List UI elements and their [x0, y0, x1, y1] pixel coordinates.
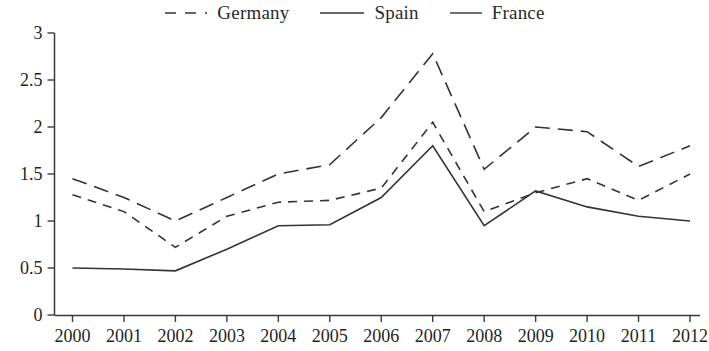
x-tick-label: 2007 — [415, 326, 451, 346]
data-series-group — [73, 54, 691, 271]
x-tick-label: 2010 — [569, 326, 605, 346]
y-tick-label: 2.5 — [20, 70, 43, 90]
x-tick-label: 2003 — [209, 326, 245, 346]
y-tick-label: 1.5 — [20, 164, 43, 184]
line-chart: Germany Spain France 00.511.522.53 20002… — [0, 0, 709, 351]
series-line-france — [73, 54, 691, 221]
y-axis: 00.511.522.53 — [20, 23, 55, 325]
x-tick-label: 2000 — [55, 326, 91, 346]
y-axis-ticks — [48, 33, 55, 315]
series-line-germany — [73, 122, 691, 247]
x-tick-label: 2004 — [260, 326, 296, 346]
x-tick-label: 2011 — [621, 326, 656, 346]
y-tick-label: 1 — [34, 211, 43, 231]
x-tick-label: 2006 — [363, 326, 399, 346]
x-tick-label: 2002 — [157, 326, 193, 346]
x-tick-label: 2009 — [518, 326, 554, 346]
y-axis-tick-labels: 00.511.522.53 — [20, 23, 43, 325]
plot-area: 00.511.522.53 20002001200220032004200520… — [0, 0, 709, 351]
x-axis-tick-labels: 2000200120022003200420052006200720082009… — [55, 326, 709, 346]
x-axis: 2000200120022003200420052006200720082009… — [55, 315, 709, 346]
y-tick-label: 0.5 — [20, 258, 43, 278]
x-tick-label: 2012 — [672, 326, 708, 346]
x-tick-label: 2005 — [312, 326, 348, 346]
y-tick-label: 2 — [34, 117, 43, 137]
x-tick-label: 2008 — [466, 326, 502, 346]
y-tick-label: 3 — [34, 23, 43, 43]
y-tick-label: 0 — [34, 305, 43, 325]
series-line-spain — [73, 146, 691, 271]
x-tick-label: 2001 — [106, 326, 142, 346]
